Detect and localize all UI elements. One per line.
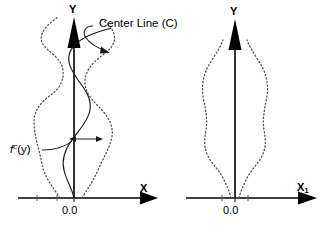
right-x-axis-label: X1 xyxy=(297,182,309,195)
density-label-leader xyxy=(42,141,72,150)
figure-container: Y X 0.0 Center Line (C) fc(y) Y X1 0.0 xyxy=(0,0,328,239)
right-panel-right-envelope xyxy=(239,40,268,198)
density-function-argument: (y) xyxy=(17,143,30,155)
left-origin-tick-label: 0.0 xyxy=(62,205,77,216)
right-y-axis-arrowhead xyxy=(229,19,242,50)
right-panel-graphics xyxy=(186,19,317,205)
left-y-axis-label: Y xyxy=(69,4,76,15)
center-line-callout-leader xyxy=(84,26,106,51)
right-x-axis-label-subscript: 1 xyxy=(304,186,308,195)
density-function-label: fc(y) xyxy=(10,143,31,156)
spread-measure-arrowhead-left xyxy=(69,136,76,142)
spread-measure-arrowhead-right xyxy=(96,136,103,142)
left-panel-graphics xyxy=(18,17,158,205)
left-x-axis-label: X xyxy=(140,183,147,194)
right-envelope-curve xyxy=(82,18,115,198)
left-y-axis-arrowhead xyxy=(68,17,81,48)
figure-canvas xyxy=(0,0,328,239)
center-line-callout-label: Center Line (C) xyxy=(99,18,178,30)
right-panel-left-envelope xyxy=(202,40,231,198)
right-origin-tick-label: 0.0 xyxy=(223,205,238,216)
left-envelope-curve xyxy=(34,17,63,198)
right-y-axis-label: Y xyxy=(230,6,237,17)
